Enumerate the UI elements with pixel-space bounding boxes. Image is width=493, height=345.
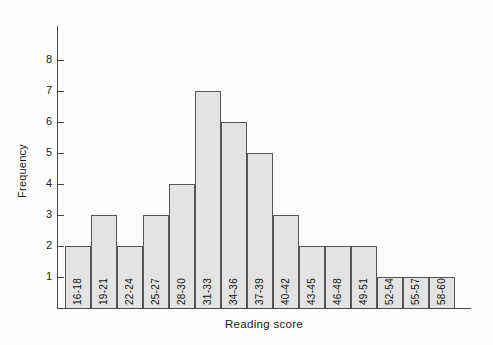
y-axis-tick-label-text: 5	[34, 147, 52, 158]
bar-category-label: 58-60	[437, 278, 447, 305]
bar-category-label: 52-54	[385, 278, 395, 305]
histogram-bar: 28-30	[169, 184, 195, 308]
bar-category-label: 25-27	[151, 278, 161, 305]
y-axis-tick-label: 6	[28, 116, 52, 127]
y-axis-tick-mark	[57, 91, 64, 92]
bar-category-label: 28-30	[177, 278, 187, 305]
histogram-bar: 31-33	[195, 91, 221, 308]
y-axis-title: Frequency	[16, 131, 28, 211]
histogram-figure: 12345678 Frequency Reading score 16-1819…	[0, 0, 493, 345]
histogram-bar: 46-48	[325, 246, 351, 308]
y-axis-tick-label: 7	[28, 85, 52, 96]
bar-category-label: 40-42	[281, 278, 291, 305]
bar-category-label: 46-48	[333, 278, 343, 305]
y-axis-tick-label: 3	[28, 209, 52, 220]
y-axis-tick-label-text: 8	[34, 54, 52, 65]
y-axis-tick-mark	[57, 215, 64, 216]
histogram-bar: 43-45	[299, 246, 325, 308]
y-axis-tick-label-text: 4	[34, 178, 52, 189]
y-axis-tick-mark	[57, 153, 64, 154]
y-axis-tick-mark	[57, 277, 64, 278]
bar-category-label: 43-45	[307, 278, 317, 305]
histogram-bar: 22-24	[117, 246, 143, 308]
bar-category-label-holder: 25-27	[144, 263, 168, 305]
bar-category-label-holder: 22-24	[118, 263, 142, 305]
histogram-bar: 52-54	[377, 277, 403, 308]
histogram-bar: 19-21	[91, 215, 117, 308]
bar-category-label-holder: 34-36	[222, 263, 246, 305]
bar-category-label-holder: 49-51	[352, 263, 376, 305]
bar-category-label: 31-33	[203, 278, 213, 305]
bar-category-label: 22-24	[125, 278, 135, 305]
y-axis-line	[57, 26, 58, 309]
bar-category-label: 16-18	[73, 278, 83, 305]
y-axis-tick-label-text: 2	[34, 240, 52, 251]
bar-category-label: 49-51	[359, 278, 369, 305]
bar-category-label-holder: 28-30	[170, 263, 194, 305]
bar-category-label: 19-21	[99, 278, 109, 305]
bar-category-label-holder: 31-33	[196, 263, 220, 305]
y-axis-tick-label-text: 3	[34, 209, 52, 220]
bar-category-label: 37-39	[255, 278, 265, 305]
y-axis-tick-mark	[57, 60, 64, 61]
bar-category-label: 34-36	[229, 278, 239, 305]
bar-category-label-holder: 43-45	[300, 263, 324, 305]
histogram-bar: 34-36	[221, 122, 247, 308]
bar-category-label-holder: 58-60	[430, 263, 454, 305]
y-axis-tick-label: 2	[28, 240, 52, 251]
y-axis-tick-label: 8	[28, 54, 52, 65]
bar-category-label-holder: 40-42	[274, 263, 298, 305]
bar-category-label-holder: 52-54	[378, 263, 402, 305]
x-axis-title: Reading score	[57, 318, 471, 330]
histogram-bar: 25-27	[143, 215, 169, 308]
y-axis-tick-label: 1	[28, 271, 52, 282]
bar-category-label-holder: 55-57	[404, 263, 428, 305]
histogram-bar: 58-60	[429, 277, 455, 308]
histogram-bar: 49-51	[351, 246, 377, 308]
y-axis-tick-label-text: 6	[34, 116, 52, 127]
y-axis-tick-label-text: 1	[34, 271, 52, 282]
histogram-bar: 55-57	[403, 277, 429, 308]
x-axis-line	[57, 308, 471, 309]
histogram-bar: 16-18	[65, 246, 91, 308]
y-axis-tick-mark	[57, 122, 64, 123]
y-axis-tick-mark	[57, 184, 64, 185]
bar-category-label: 55-57	[411, 278, 421, 305]
y-axis-tick-label: 4	[28, 178, 52, 189]
histogram-bar: 40-42	[273, 215, 299, 308]
bar-category-label-holder: 46-48	[326, 263, 350, 305]
y-axis-tick-label-text: 7	[34, 85, 52, 96]
bar-category-label-holder: 37-39	[248, 263, 272, 305]
y-axis-tick-mark	[57, 246, 64, 247]
bar-category-label-holder: 19-21	[92, 263, 116, 305]
bar-category-label-holder: 16-18	[66, 263, 90, 305]
histogram-bar: 37-39	[247, 153, 273, 308]
y-axis-tick-label: 5	[28, 147, 52, 158]
